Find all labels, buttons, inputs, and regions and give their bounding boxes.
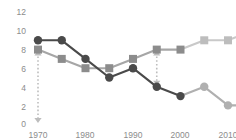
y-tick-label-0: 0 — [21, 119, 26, 129]
circle-data-point — [129, 64, 137, 72]
circle-data-point — [176, 92, 184, 100]
square-data-point — [82, 64, 90, 72]
square-data-point — [224, 36, 232, 44]
circle-data-point — [153, 83, 161, 91]
y-tick-label-10: 10 — [17, 26, 27, 36]
circle-data-point — [224, 101, 232, 109]
y-tick-label-8: 8 — [21, 45, 26, 55]
circle-series-markers — [34, 36, 236, 110]
square-data-point — [58, 55, 66, 63]
x-tick-label-1970: 1970 — [29, 130, 48, 140]
x-tick-label-2000: 2000 — [171, 130, 190, 140]
circle-data-point — [105, 73, 113, 81]
x-tick-label-1990: 1990 — [124, 130, 143, 140]
x-tick-label-2010: 2010 — [219, 130, 236, 140]
y-tick-label-12: 12 — [17, 7, 27, 17]
circle-data-point — [81, 55, 89, 63]
gap-arrow-1995 — [153, 51, 160, 86]
y-tick-label-6: 6 — [21, 64, 26, 74]
square-data-point — [153, 46, 161, 54]
circle-data-point — [58, 36, 66, 44]
y-tick-label-2: 2 — [21, 102, 26, 112]
gap-arrow-1970 — [34, 51, 41, 123]
x-tick-label-1980: 1980 — [76, 130, 95, 140]
chart-plot-area: 12 10 8 6 4 2 0 1970 1980 1990 2000 2010 — [0, 0, 236, 140]
square-data-point — [200, 36, 208, 44]
y-tick-label-4: 4 — [21, 83, 26, 93]
square-data-point — [105, 64, 113, 72]
circle-data-point — [200, 83, 208, 91]
circle-data-point — [34, 36, 42, 44]
square-data-point — [34, 46, 42, 54]
square-data-point — [129, 55, 137, 63]
square-data-point — [177, 46, 185, 54]
line-chart: 12 10 8 6 4 2 0 1970 1980 1990 2000 2010 — [0, 0, 236, 140]
